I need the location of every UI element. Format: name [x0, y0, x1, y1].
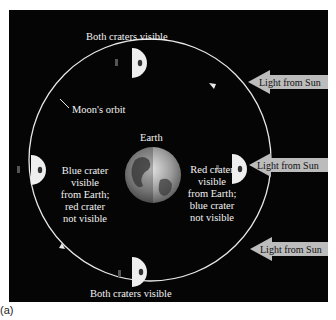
far-crater-marker: [17, 166, 20, 173]
label-line: Blue crater: [50, 165, 120, 177]
figure-caption: (a): [0, 304, 13, 316]
sun-arrow-1: Light from Sun: [248, 70, 328, 94]
label-line: blue crater: [176, 200, 248, 212]
label-line: visible: [176, 176, 248, 188]
label-bottom-moon: Both craters visible: [90, 288, 172, 300]
sun-arrow-label: Light from Sun: [259, 77, 321, 88]
near-crater-icon: [139, 269, 143, 275]
label-top-moon: Both craters visible: [86, 31, 168, 43]
orbit-direction-arrow-icon: [209, 83, 216, 89]
label-line: not visible: [50, 213, 120, 225]
far-crater-marker: [118, 270, 121, 277]
moon-left: [17, 155, 46, 185]
moon-bottom: [118, 257, 147, 287]
near-crater-icon: [38, 167, 42, 173]
sun-arrow-label: Light from Sun: [260, 244, 322, 255]
near-crater-icon: [138, 60, 142, 66]
label-line: from Earth;: [176, 188, 248, 200]
sun-arrow-2: Light from Sun: [249, 153, 328, 177]
label-right-moon: Red crater visible from Earth; blue crat…: [176, 164, 248, 224]
far-crater-marker: [115, 59, 118, 66]
moon-orbit-diagram: Light from Sun Light from Sun Light from…: [0, 0, 336, 320]
moon-top: [115, 48, 147, 78]
earth-globe-icon: [125, 147, 181, 203]
label-earth: Earth: [140, 132, 163, 144]
label-left-moon: Blue crater visible from Earth; red crat…: [50, 165, 120, 225]
sun-arrow-label: Light from Sun: [257, 160, 319, 171]
label-line: red crater: [50, 201, 120, 213]
label-line: visible: [50, 177, 120, 189]
label-line: not visible: [176, 212, 248, 224]
orbit-label-pointer: [60, 99, 69, 108]
label-moon-orbit: Moon's orbit: [72, 104, 126, 116]
label-line: Red crater: [176, 164, 248, 176]
sun-arrow-3: Light from Sun: [250, 237, 328, 261]
label-line: from Earth;: [50, 189, 120, 201]
